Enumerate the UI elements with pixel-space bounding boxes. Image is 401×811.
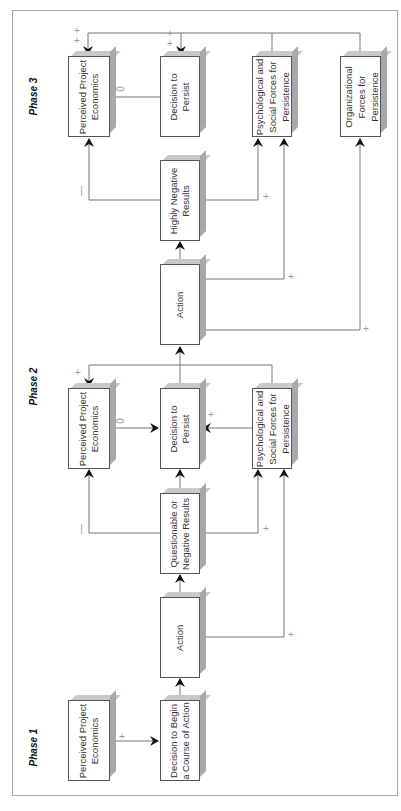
box-label: Decision to Persist (168, 399, 192, 459)
box-label: Highly Negative Results (168, 164, 192, 238)
p2-decision-to-persist-box: Decision to Persist (160, 388, 200, 469)
box-label: Decision to Persist (168, 67, 192, 127)
p3-psych-social-forces-box: Psychological and Social Forces for Pers… (252, 56, 292, 137)
sign-plus: + (167, 39, 173, 49)
sign-zero: 0 (116, 418, 126, 424)
p2-perceived-economics-box: Perceived Project Economics (68, 388, 110, 469)
sign-plus: + (363, 324, 369, 334)
p2-psych-social-forces-box: Psychological and Social Forces for Pers… (252, 388, 292, 469)
sign-minus: — (76, 186, 86, 196)
sign-plus: + (74, 36, 80, 46)
phase-2-label: Phase 2 (28, 357, 39, 417)
sign-zero: 0 (116, 86, 126, 92)
phase-3-label: Phase 3 (28, 67, 39, 127)
phase-1-label: Phase 1 (28, 718, 39, 778)
p2-action-box: Action (160, 597, 200, 678)
sign-plus: + (288, 630, 294, 640)
box-label: Perceived Project Economics (77, 389, 101, 469)
sign-minus: — (76, 524, 86, 534)
box-label: Perceived Project Economics (77, 701, 101, 781)
p1-decision-to-begin-box: Decision to Begin a Course of Action (160, 700, 200, 781)
sign-plus: + (208, 410, 214, 420)
sign-plus: + (119, 732, 125, 742)
sign-plus: + (288, 272, 294, 282)
p2-questionable-results-box: Questionable or Negative Results (160, 493, 200, 574)
sign-plus: + (263, 524, 269, 534)
p3-perceived-economics-box: Perceived Project Economics (68, 56, 110, 137)
box-label: Perceived Project Economics (77, 57, 101, 137)
p3-decision-to-persist-box: Decision to Persist (160, 56, 200, 137)
box-label: Psychological and Social Forces for Pers… (253, 390, 292, 468)
sign-plus: + (75, 368, 81, 378)
p3-organizational-forces-box: Organizational Forces for Persistence (340, 56, 381, 137)
p1-perceived-economics-box: Perceived Project Economics (68, 700, 110, 781)
box-label: Decision to Begin a Course of Action (168, 701, 192, 781)
p3-action-box: Action (160, 264, 200, 345)
p3-highly-negative-results-box: Highly Negative Results (160, 160, 200, 241)
box-label: Action (174, 265, 186, 345)
sign-plus: + (263, 192, 269, 202)
box-label: Psychological and Social Forces for Pers… (253, 58, 292, 136)
box-label: Organizational Forces for Persistence (341, 64, 380, 130)
box-label: Questionable or Negative Results (168, 494, 192, 574)
box-label: Action (174, 598, 186, 678)
